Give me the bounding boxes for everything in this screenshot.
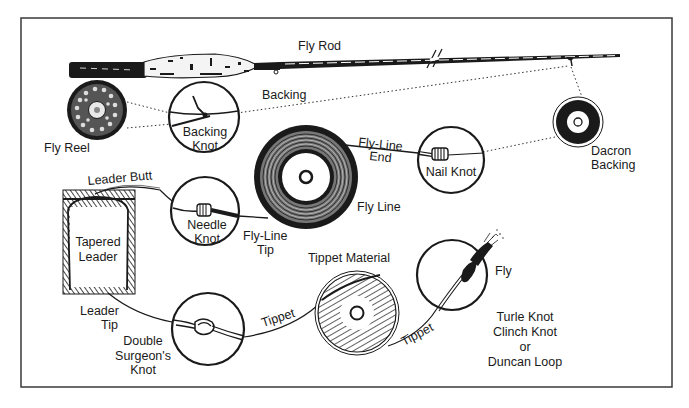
- fly-line-label: Fly Line: [357, 200, 401, 214]
- dacron-backing-label-1: Dacron: [591, 144, 631, 158]
- tippet-material-label: Tippet Material: [308, 251, 390, 265]
- dacron-backing-label-2: Backing: [591, 158, 636, 172]
- fly-rigging-diagram: Fly Rod Fly Reel Backing Backing K: [0, 0, 689, 408]
- fly-line-end-label-2: End: [369, 149, 393, 165]
- nail-knot-detail: Nail Knot: [418, 127, 484, 193]
- fly-reel-label: Fly Reel: [44, 141, 90, 155]
- nail-knot-label: Nail Knot: [426, 165, 477, 179]
- leader-tip-label-2: Tip: [101, 318, 118, 332]
- needle-knot-detail: Needle Knot: [171, 177, 239, 246]
- double-surgeons-label-3: Knot: [130, 363, 156, 377]
- backing-label: Backing: [262, 88, 307, 102]
- fly-knot-option-or: or: [519, 340, 530, 354]
- fly-knot-option-turle: Turle Knot: [496, 310, 554, 324]
- backing-knot-label-2: Knot: [192, 139, 218, 153]
- backing-knot-label-1: Backing: [183, 125, 228, 139]
- tapered-leader-label-2: Leader: [79, 250, 118, 264]
- fly-label: Fly: [495, 264, 512, 278]
- fly-knot-option-clinch: Clinch Knot: [493, 325, 557, 339]
- needle-knot-label-1: Needle: [187, 218, 227, 232]
- double-surgeons-label-2: Surgeon's: [115, 349, 171, 363]
- backing-knot-detail: Backing Knot: [169, 82, 239, 153]
- fly-line-tip-label-1: Fly-Line: [243, 229, 288, 243]
- tapered-leader-package: Tapered Leader: [63, 190, 135, 294]
- tapered-leader-label-1: Tapered: [75, 235, 120, 249]
- fly-rod-label: Fly Rod: [298, 39, 341, 53]
- needle-knot-label-2: Knot: [194, 232, 220, 246]
- double-surgeons-label-1: Double: [123, 334, 163, 348]
- fly-knot-option-duncan: Duncan Loop: [488, 355, 562, 369]
- leader-tip-label-1: Leader: [80, 304, 119, 318]
- fly-line-tip-label-2: Tip: [257, 243, 274, 257]
